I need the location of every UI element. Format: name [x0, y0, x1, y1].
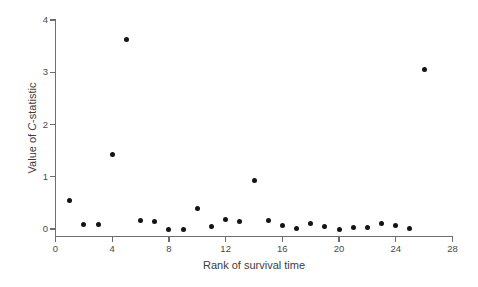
data-point: [322, 224, 327, 229]
data-point: [365, 225, 370, 230]
y-tick-mark: [50, 124, 55, 125]
y-tick-label-wrap: 4: [24, 15, 48, 25]
x-tick-mark: [282, 237, 283, 242]
y-axis-line: [55, 19, 56, 237]
x-tick-mark: [168, 237, 169, 242]
data-point: [280, 223, 285, 228]
x-tick-label: 0: [43, 243, 69, 254]
data-point: [124, 37, 129, 42]
data-point: [379, 221, 384, 226]
y-tick-label: 0: [26, 224, 48, 234]
x-axis-title: Rank of survival time: [55, 259, 453, 271]
data-point: [266, 218, 271, 223]
data-point: [81, 222, 86, 227]
data-point: [181, 227, 186, 232]
data-point: [209, 224, 214, 229]
data-point: [195, 206, 200, 211]
y-tick-mark: [50, 19, 55, 20]
data-point: [166, 227, 171, 232]
x-tick-label: 24: [383, 243, 409, 254]
data-point: [407, 226, 412, 231]
data-point: [351, 225, 356, 230]
x-tick-label: 20: [326, 243, 352, 254]
y-tick-mark: [50, 72, 55, 73]
data-point: [67, 198, 72, 203]
data-point: [223, 217, 228, 222]
y-tick-mark: [50, 176, 55, 177]
data-point: [337, 227, 342, 232]
x-axis-line: [55, 236, 453, 237]
x-tick-label: 8: [156, 243, 182, 254]
data-point: [96, 222, 101, 227]
data-point: [152, 219, 157, 224]
x-tick-mark: [55, 237, 56, 242]
x-tick-label: 28: [440, 243, 466, 254]
y-axis-title-italic: C: [26, 123, 38, 131]
plot-area: 01234 0481216202428 Value of C-statistic…: [0, 0, 478, 287]
scatter-plot-figure: 01234 0481216202428 Value of C-statistic…: [0, 0, 478, 287]
y-axis-title-prefix: Value of: [26, 131, 38, 174]
data-point: [110, 152, 115, 157]
y-axis-title-suffix: -statistic: [26, 83, 38, 123]
data-point: [308, 221, 313, 226]
x-tick-label: 4: [99, 243, 125, 254]
x-tick-mark: [112, 237, 113, 242]
x-tick-label: 16: [269, 243, 295, 254]
data-point: [294, 226, 299, 231]
x-tick-mark: [452, 237, 453, 242]
y-tick-label: 4: [26, 15, 48, 25]
data-point: [393, 223, 398, 228]
x-tick-mark: [395, 237, 396, 242]
data-point: [138, 218, 143, 223]
y-axis-title: Value of C-statistic: [26, 43, 38, 213]
data-point: [422, 67, 427, 72]
y-tick-label-wrap: 0: [24, 224, 48, 234]
x-tick-mark: [225, 237, 226, 242]
x-tick-label: 12: [213, 243, 239, 254]
data-point: [252, 178, 257, 183]
data-point: [237, 219, 242, 224]
y-tick-mark: [50, 228, 55, 229]
x-tick-mark: [338, 237, 339, 242]
